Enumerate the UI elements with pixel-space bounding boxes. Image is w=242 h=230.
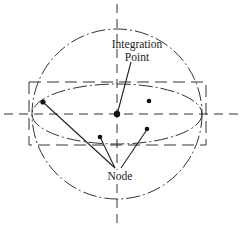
node-label: Node xyxy=(100,170,140,182)
node-marker-3 xyxy=(98,135,103,140)
node-leader-3 xyxy=(121,131,146,168)
integration-point-label-line1: Integration xyxy=(104,38,170,50)
node-leader-2 xyxy=(101,139,115,168)
integration-point-label-line2: Point xyxy=(104,51,170,63)
node-marker-2 xyxy=(147,99,152,104)
integration-point-marker xyxy=(114,111,120,117)
integration-point-diagram xyxy=(0,0,242,230)
integration-point-leader xyxy=(118,62,131,111)
node-marker-4 xyxy=(145,127,150,132)
node-marker-1 xyxy=(40,99,45,104)
